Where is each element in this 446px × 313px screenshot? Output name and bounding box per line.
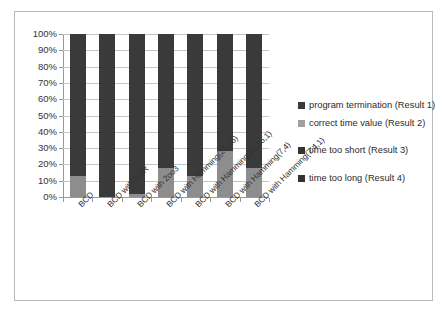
y-axis-tick <box>59 50 63 51</box>
y-axis-tick-label: 50% <box>17 111 57 121</box>
y-axis-tick-label: 90% <box>17 45 57 55</box>
bar-segment <box>158 34 174 168</box>
legend-swatch-icon <box>298 120 305 127</box>
bar-segment <box>70 34 86 176</box>
bar-column[interactable] <box>99 34 115 197</box>
y-axis-tick-label: 10% <box>17 176 57 186</box>
y-axis-tick <box>59 148 63 149</box>
legend-item[interactable]: correct time value (Result 2) <box>298 118 446 130</box>
y-axis-tick-label: 0% <box>17 192 57 202</box>
legend-label: program termination (Result 1) <box>309 100 435 112</box>
y-axis-tick <box>59 197 63 198</box>
y-axis-tick <box>59 34 63 35</box>
x-axis-labels: BCDBCD with XORBCD with 2oo3BCD with Ham… <box>63 202 293 307</box>
y-axis-tick <box>59 164 63 165</box>
y-axis-tick <box>59 67 63 68</box>
y-axis-tick-label: 100% <box>17 29 57 39</box>
y-axis-tick-label: 40% <box>17 127 57 137</box>
bar-segment <box>99 34 115 197</box>
y-axis-tick <box>59 99 63 100</box>
y-axis-tick-label: 60% <box>17 94 57 104</box>
legend-item[interactable]: program termination (Result 1) <box>298 100 446 112</box>
legend-label: time too short (Result 3) <box>309 145 408 157</box>
y-axis-labels: 100%90%80%70%60%50%40%30%20%10%0% <box>15 34 57 198</box>
y-axis-tick <box>59 181 63 182</box>
legend-swatch-icon <box>298 102 305 109</box>
bar-segment <box>187 34 203 176</box>
legend-item[interactable]: time too long (Result 4) <box>298 173 446 185</box>
y-axis-tick-label: 80% <box>17 62 57 72</box>
legend-swatch-icon <box>298 147 305 154</box>
y-axis-tick <box>59 116 63 117</box>
y-axis-tick-label: 20% <box>17 159 57 169</box>
y-axis-tick <box>59 83 63 84</box>
legend-label: time too long (Result 4) <box>309 173 405 185</box>
bar-column[interactable] <box>70 34 86 197</box>
legend-item[interactable]: time too short (Result 3) <box>298 145 446 157</box>
chart-frame: 100%90%80%70%60%50%40%30%20%10%0% BCDBCD… <box>14 11 433 301</box>
legend-label: correct time value (Result 2) <box>309 118 425 130</box>
y-axis-tick-label: 30% <box>17 143 57 153</box>
y-axis-tick-label: 70% <box>17 78 57 88</box>
legend-swatch-icon <box>298 175 305 182</box>
y-axis-tick <box>59 132 63 133</box>
chart-legend: program termination (Result 1)correct ti… <box>298 100 446 186</box>
